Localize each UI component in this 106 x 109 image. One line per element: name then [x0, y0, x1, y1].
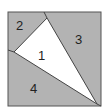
- region-2-label: 2: [16, 18, 23, 33]
- region-1-label: 1: [38, 48, 45, 63]
- region-3-label: 3: [75, 32, 82, 47]
- region-4-label: 4: [30, 81, 37, 96]
- square-partition-diagram: 1 2 3 4: [0, 0, 106, 109]
